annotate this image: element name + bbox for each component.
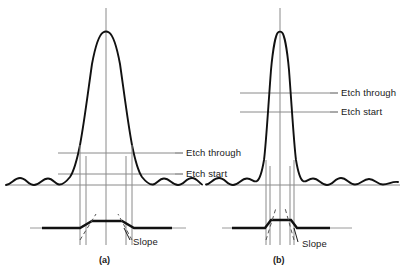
panel-a-intensity-curve [6, 32, 202, 185]
panel-a-slope-pointer [124, 228, 130, 240]
panel-b-etch-through-label: Etch through [341, 87, 396, 98]
panel-a [6, 8, 202, 245]
panel-a-etch-profile [42, 221, 172, 228]
panel-b-caption: (b) [273, 255, 285, 265]
panel-b-slope-pointer [294, 228, 298, 242]
figure-container: Etch through Etch start Slope (a) Etch t… [0, 0, 407, 276]
panel-a-slope-label: Slope [133, 236, 158, 247]
panel-a-caption: (a) [99, 255, 110, 265]
etch-profile-diagram [0, 0, 407, 276]
panel-b-etch-start-label: Etch start [341, 106, 382, 117]
panel-a-etch-through-label: Etch through [186, 147, 241, 158]
panel-b-slope-label: Slope [302, 238, 327, 249]
panel-a-slope-leader-right [118, 214, 132, 240]
panel-b [206, 8, 400, 245]
panel-b-etch-profile [232, 220, 330, 228]
panel-a-etch-start-label: Etch start [186, 168, 227, 179]
